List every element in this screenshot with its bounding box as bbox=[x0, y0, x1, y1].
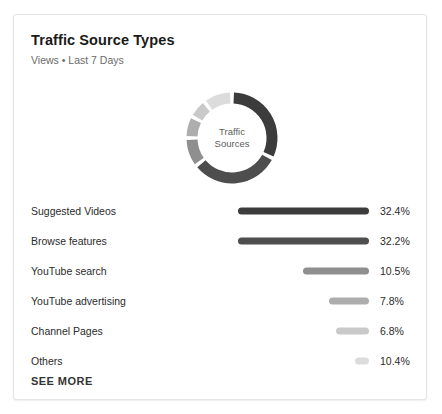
donut-segment bbox=[201, 157, 267, 178]
traffic-source-percent: 6.8% bbox=[380, 325, 404, 338]
traffic-source-bar-track bbox=[238, 208, 369, 215]
traffic-source-percent: 10.5% bbox=[380, 265, 410, 278]
traffic-source-bar bbox=[329, 298, 369, 305]
page-title: Traffic Source Types bbox=[31, 31, 175, 49]
traffic-source-types-card: Traffic Source Types Views • Last 7 Days… bbox=[13, 14, 427, 400]
traffic-source-percent: 10.4% bbox=[380, 355, 410, 368]
donut-segment bbox=[192, 121, 196, 137]
traffic-source-list: Suggested Videos32.4%Browse features32.2… bbox=[14, 196, 426, 376]
traffic-source-bar-track bbox=[238, 358, 369, 365]
traffic-source-label: YouTube search bbox=[31, 265, 107, 278]
donut-segment bbox=[198, 107, 207, 117]
donut-segment bbox=[209, 98, 230, 105]
traffic-source-label: Others bbox=[31, 355, 63, 368]
traffic-source-bar bbox=[238, 208, 369, 215]
traffic-source-percent: 32.4% bbox=[380, 205, 410, 218]
traffic-source-bar bbox=[238, 238, 369, 245]
traffic-source-bar bbox=[303, 268, 369, 275]
traffic-source-bar-track bbox=[238, 298, 369, 305]
traffic-source-row: Suggested Videos32.4% bbox=[14, 196, 426, 226]
traffic-source-label: Suggested Videos bbox=[31, 205, 116, 218]
traffic-source-bar bbox=[336, 328, 369, 335]
see-more-link[interactable]: SEE MORE bbox=[31, 375, 93, 387]
traffic-source-bar bbox=[355, 358, 369, 365]
donut-chart-svg bbox=[177, 86, 287, 190]
donut-segments bbox=[192, 98, 272, 178]
traffic-source-bar-track bbox=[238, 238, 369, 245]
card-header: Traffic Source Types Views • Last 7 Days bbox=[31, 31, 175, 67]
donut-segment bbox=[234, 98, 272, 154]
traffic-source-row: Browse features32.2% bbox=[14, 226, 426, 256]
traffic-source-percent: 7.8% bbox=[380, 295, 404, 308]
traffic-source-row: YouTube search10.5% bbox=[14, 256, 426, 286]
traffic-source-percent: 32.2% bbox=[380, 235, 410, 248]
traffic-source-label: Browse features bbox=[31, 235, 107, 248]
donut-chart: Traffic Sources bbox=[177, 86, 287, 190]
traffic-source-label: YouTube advertising bbox=[31, 295, 126, 308]
traffic-source-bar-track bbox=[238, 328, 369, 335]
traffic-source-label: Channel Pages bbox=[31, 325, 103, 338]
traffic-source-row: Channel Pages6.8% bbox=[14, 316, 426, 346]
traffic-source-row: YouTube advertising7.8% bbox=[14, 286, 426, 316]
card-subtitle: Views • Last 7 Days bbox=[31, 53, 175, 67]
traffic-source-bar-track bbox=[238, 268, 369, 275]
donut-segment bbox=[192, 140, 199, 161]
traffic-source-row: Others10.4% bbox=[14, 346, 426, 376]
